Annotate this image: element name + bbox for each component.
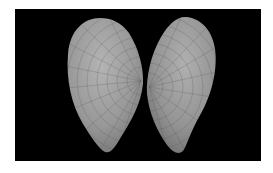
- shell-pair-illustration: [15, 9, 261, 161]
- photo: Pair of bivalve shell valves, left and r…: [15, 9, 261, 161]
